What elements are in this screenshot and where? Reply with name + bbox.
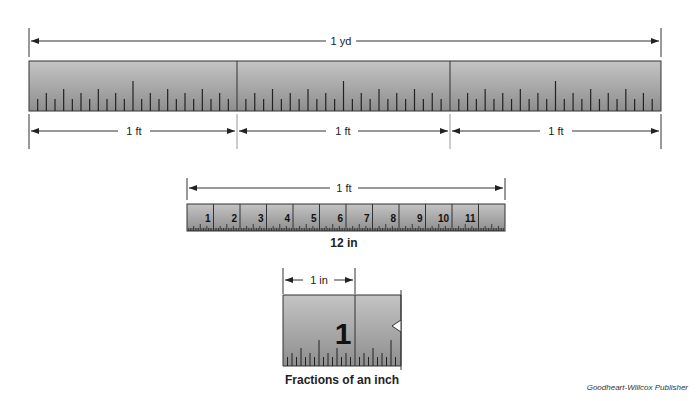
svg-text:11: 11 (465, 213, 476, 224)
publisher-credit: Goodheart-Willcox Publisher (587, 383, 688, 392)
foot-dimensions: 1 ft 1 ft 1 ft (29, 114, 661, 149)
svg-text:2: 2 (231, 213, 237, 224)
foot-ruler: 1234567891011 (187, 204, 505, 231)
inch-ruler-caption: Fractions of an inch (285, 373, 399, 387)
svg-text:6: 6 (337, 213, 343, 224)
foot-label-2: 1 ft (335, 125, 350, 137)
inch-dimension: 1 in (283, 268, 355, 294)
foot-ruler-label: 1 ft (336, 182, 351, 194)
foot-label-3: 1 ft (548, 125, 563, 137)
yard-label: 1 yd (331, 35, 352, 47)
svg-text:9: 9 (417, 213, 423, 224)
svg-text:5: 5 (311, 213, 317, 224)
svg-text:8: 8 (390, 213, 396, 224)
foot-dimension: 1 ft (187, 178, 505, 200)
svg-text:7: 7 (364, 213, 370, 224)
inch-label: 1 in (310, 274, 328, 286)
svg-text:4: 4 (284, 213, 290, 224)
inch-number: 1 (335, 317, 352, 350)
foot-label-1: 1 ft (126, 125, 141, 137)
svg-text:1: 1 (205, 213, 211, 224)
yard-ruler (29, 61, 661, 111)
foot-ruler-caption: 12 in (330, 236, 357, 250)
svg-text:10: 10 (438, 213, 450, 224)
svg-text:3: 3 (258, 213, 264, 224)
measurement-diagram: 1 yd 1 ft 1 ft 1 ft 1 ft 1234567891011 (0, 0, 696, 401)
yard-dimension: 1 yd (29, 28, 661, 57)
inch-ruler: 1 (283, 290, 401, 370)
